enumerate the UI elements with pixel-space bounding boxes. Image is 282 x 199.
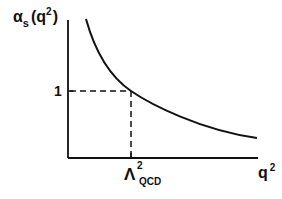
y-tick-label: 1 [54, 84, 62, 98]
x-axis-label: q2 [258, 165, 275, 181]
x-axis-label-sup: 2 [270, 162, 276, 173]
x-tick-label-base: Λ [124, 165, 135, 184]
y-axis-label-arg-sup: 2 [46, 6, 52, 17]
x-tick-label: Λ 2 QCD [124, 166, 135, 183]
x-tick-label-sup: 2 [137, 161, 143, 171]
y-axis-label-arg-open: (q [31, 8, 46, 25]
x-axis-label-base: q [258, 164, 268, 181]
y-axis-label-base: α [13, 8, 23, 25]
x-tick-label-sub: QCD [139, 177, 161, 187]
y-axis-label-sub: s [23, 17, 29, 29]
coupling-curve [86, 19, 257, 138]
y-axis-label: αs(q2) [13, 9, 58, 25]
y-axis-label-arg-close: ) [53, 8, 58, 25]
